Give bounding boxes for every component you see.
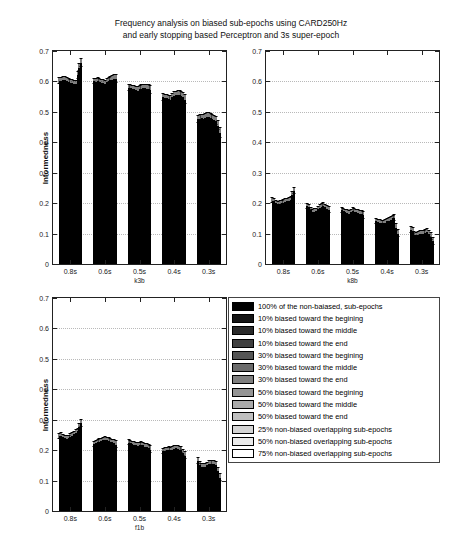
y-tick-label: 0.6 [39, 78, 49, 85]
bar-group [375, 51, 399, 264]
y-tick-mark [222, 142, 226, 143]
bar-group [59, 51, 83, 264]
legend-item: 30% biased toward the end [232, 374, 436, 386]
bar [184, 456, 186, 511]
y-tick-label: 0 [45, 508, 49, 515]
error-bar-cap [293, 193, 296, 194]
error-bar-cap [431, 244, 434, 245]
error-bar-cap [396, 229, 399, 230]
legend-swatch [232, 388, 254, 397]
bar-slot [115, 51, 117, 264]
error-bar-cap [183, 94, 186, 95]
x-tick-label: 0.4s [380, 268, 393, 275]
legend-label: 30% biased toward the middle [258, 363, 357, 372]
y-tick-mark [266, 173, 270, 174]
y-tick-mark [222, 234, 226, 235]
bar-slot [328, 51, 330, 264]
y-tick-label: 0.3 [39, 169, 49, 176]
y-tick-mark [266, 203, 270, 204]
bar [115, 79, 117, 264]
bar-group [128, 51, 152, 264]
y-tick-mark [222, 264, 226, 265]
y-tick-mark [435, 173, 439, 174]
bar-group [272, 51, 296, 264]
y-tick-mark [53, 203, 57, 204]
y-tick-label: 0.2 [39, 200, 49, 207]
y-tick-mark [53, 328, 57, 329]
y-tick-label: 0.5 [252, 108, 262, 115]
legend-swatch [232, 375, 254, 384]
y-tick-mark [266, 81, 270, 82]
legend-swatch [232, 314, 254, 323]
error-bar-cap [218, 127, 221, 128]
error-bar-cap [80, 66, 83, 67]
y-tick-label: 0 [45, 261, 49, 268]
y-tick-mark [53, 112, 57, 113]
y-tick-label: 0.3 [39, 416, 49, 423]
bar-group [341, 51, 365, 264]
x-tick-mark [140, 260, 141, 264]
y-tick-label: 0.6 [252, 78, 262, 85]
legend-swatch [232, 437, 254, 446]
y-tick-mark [222, 481, 226, 482]
y-tick-mark [53, 359, 57, 360]
bar [184, 100, 186, 264]
bar-group [162, 51, 186, 264]
error-bar-cap [149, 445, 152, 446]
y-tick-mark [435, 51, 439, 52]
y-tick-mark [266, 112, 270, 113]
x-tick-mark [387, 260, 388, 264]
x-tick-label: 0.4s [167, 268, 180, 275]
legend-item: 10% biased toward the begining [232, 312, 436, 324]
y-tick-mark [53, 264, 57, 265]
error-bar-cap [149, 452, 152, 453]
y-tick-mark [266, 234, 270, 235]
figure-canvas: Frequency analysis on biased sub-epochs … [0, 0, 462, 553]
error-bar-cap [114, 440, 117, 441]
x-tick-mark [353, 51, 354, 55]
legend-item: 50% non-biased overlapping sub-epochs [232, 435, 436, 447]
error-bar-cap [183, 103, 186, 104]
error-bar-cap [114, 74, 117, 75]
bar [362, 215, 364, 264]
bar [80, 423, 82, 511]
y-tick-mark [53, 51, 57, 52]
bar-slot [293, 51, 295, 264]
y-tick-mark [435, 203, 439, 204]
error-bar-cap [362, 218, 365, 219]
y-tick-mark [53, 142, 57, 143]
x-tick-mark [70, 51, 71, 55]
x-tick-label: 0.5s [133, 268, 146, 275]
bar-group [197, 51, 221, 264]
legend-item: 100% of the non-baiased, sub-epochs [232, 300, 436, 312]
bar-slot [397, 51, 399, 264]
bar-group [128, 298, 152, 511]
y-tick-mark [53, 450, 57, 451]
x-tick-label: 0.6s [98, 515, 111, 522]
error-bar-cap [218, 137, 221, 138]
x-tick-mark [174, 298, 175, 302]
y-tick-mark [222, 389, 226, 390]
bar [219, 133, 221, 264]
error-bar-cap [362, 211, 365, 212]
bar-group [197, 298, 221, 511]
subplot-k8b-xlabel: k8b [347, 277, 357, 284]
bar-slot [184, 298, 186, 511]
error-bar-cap [114, 447, 117, 448]
legend-swatch [232, 412, 254, 421]
x-tick-label: 0.8s [64, 515, 77, 522]
legend-swatch [232, 400, 254, 409]
x-tick-label: 0.6s [98, 268, 111, 275]
bar [149, 450, 151, 511]
y-tick-mark [222, 81, 226, 82]
legend-label: 30% biased toward the begining [258, 351, 363, 360]
y-tick-mark [222, 173, 226, 174]
subplot-k8b: k8b 00.10.20.30.40.50.60.70.8s0.6s0.5s0.… [265, 50, 440, 265]
legend-item: 50% biased toward the middle [232, 398, 436, 410]
y-tick-mark [435, 264, 439, 265]
x-tick-mark [105, 260, 106, 264]
x-tick-label: 0.4s [167, 515, 180, 522]
y-tick-label: 0.7 [39, 48, 49, 55]
x-tick-label: 0.8s [64, 268, 77, 275]
y-tick-mark [53, 173, 57, 174]
